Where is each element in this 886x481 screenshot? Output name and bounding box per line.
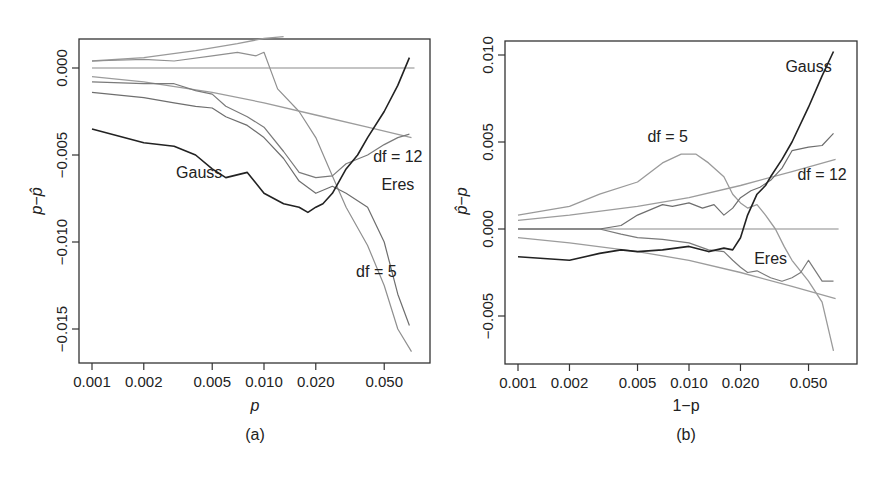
y-tick-label: 0.000 (479, 210, 496, 248)
series-annotation: Eres (381, 176, 414, 193)
series-line (92, 58, 409, 213)
figure: 0.0010.0020.0050.0100.0200.0500.000−0.00… (0, 0, 886, 481)
series-annotation: df = 5 (356, 263, 397, 280)
series-annotation: Gauss (176, 164, 222, 181)
panel-a-chart: 0.0010.0020.0050.0100.0200.0500.000−0.00… (28, 37, 430, 443)
x-tick-label: 0.005 (193, 373, 231, 390)
series-line (518, 159, 836, 220)
series-annotation: df = 5 (647, 128, 688, 145)
panel-a-xlabel: p (250, 397, 260, 414)
x-tick-label: 0.002 (551, 374, 589, 391)
series-line (92, 82, 409, 178)
x-tick-label: 0.002 (125, 373, 163, 390)
panel-a-ylabel: p−p̂ (28, 187, 45, 215)
panel-b-axes: 0.0010.0020.0050.0100.0200.0500.0100.005… (479, 36, 827, 391)
panel-b-ylabel: p̂−p (453, 187, 470, 215)
panel-a-axes: 0.0010.0020.0050.0100.0200.0500.000−0.00… (53, 49, 403, 390)
x-tick-label: 0.020 (722, 374, 760, 391)
panel-b-frame (505, 41, 857, 364)
series-annotation: Eres (754, 250, 787, 267)
x-tick-label: 0.020 (297, 373, 335, 390)
y-tick-label: 0.005 (479, 123, 496, 161)
y-tick-label: −0.010 (53, 219, 70, 265)
x-tick-label: 0.010 (670, 374, 708, 391)
y-tick-label: −0.005 (53, 132, 70, 178)
panel-a-annotations: Gaussdf = 12Eresdf = 5 (176, 148, 423, 280)
y-tick-label: −0.015 (53, 306, 70, 352)
series-annotation: df = 12 (373, 148, 422, 165)
series-line (92, 37, 284, 61)
x-tick-label: 0.010 (245, 373, 283, 390)
x-tick-label: 0.050 (365, 373, 403, 390)
series-line (518, 238, 836, 299)
panel-b-xlabel: 1−p (672, 397, 699, 414)
y-tick-label: 0.000 (53, 49, 70, 87)
x-tick-label: 0.005 (619, 374, 657, 391)
panel-b-chart: 0.0010.0020.0050.0100.0200.0500.0100.005… (453, 36, 857, 443)
panel-b-caption: (b) (676, 426, 696, 443)
panel-a-frame (79, 39, 430, 363)
panel-a-caption: (a) (245, 426, 265, 443)
series-annotation: df = 12 (797, 166, 846, 183)
y-tick-label: 0.010 (479, 36, 496, 74)
series-line (518, 133, 834, 229)
svg-text:p̂−p: p̂−p (453, 187, 470, 215)
series-annotation: Gauss (785, 58, 831, 75)
series-line (92, 92, 409, 325)
x-tick-label: 0.050 (790, 374, 828, 391)
svg-text:p−p̂: p−p̂ (28, 187, 45, 215)
y-tick-label: −0.005 (479, 293, 496, 339)
x-tick-label: 0.001 (73, 373, 111, 390)
panel-b-series (518, 52, 839, 351)
panel-a-series (92, 37, 415, 352)
x-tick-label: 0.001 (499, 374, 537, 391)
